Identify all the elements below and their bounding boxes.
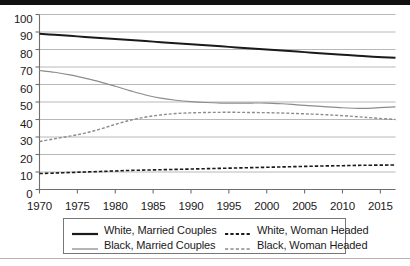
y-axis-tick-label: 70 xyxy=(0,65,33,77)
y-axis-tick-label: 40 xyxy=(0,118,33,130)
legend-swatch-dashed-black xyxy=(225,225,251,235)
legend-entry-white-married: White, Married Couples xyxy=(72,222,217,238)
line-chart-figure: White, Married Couples White, Woman Head… xyxy=(0,5,410,258)
y-axis-tick-label: 50 xyxy=(0,100,33,112)
legend-swatch-solid-black-thick xyxy=(72,225,98,235)
legend-label-black-woman: Black, Woman Headed xyxy=(257,239,367,251)
legend-label-white-married: White, Married Couples xyxy=(104,224,217,236)
legend-label-black-married: Black, Married Couples xyxy=(104,239,216,251)
bottom-divider-rule xyxy=(0,258,410,259)
y-axis-tick-label: 100 xyxy=(0,13,33,25)
legend-row-4: Black, Woman Headed xyxy=(225,237,367,253)
y-axis-tick-label: 20 xyxy=(0,153,33,165)
legend-row-3: Black, Married Couples xyxy=(72,237,216,253)
x-axis-tick-label: 2015 xyxy=(358,200,402,212)
y-axis-tick-label: 0 xyxy=(0,188,33,200)
legend-swatch-solid-gray xyxy=(72,240,98,250)
y-axis-tick-label: 60 xyxy=(0,83,33,95)
legend-row-1: White, Married Couples xyxy=(72,222,217,238)
legend-label-white-woman: White, Woman Headed xyxy=(257,224,369,236)
legend-entry-black-married: Black, Married Couples xyxy=(72,237,216,253)
legend-row-2: White, Woman Headed xyxy=(225,222,369,238)
legend-entry-white-woman: White, Woman Headed xyxy=(225,222,369,238)
y-axis-tick-label: 80 xyxy=(0,48,33,60)
series-line-1 xyxy=(40,71,396,109)
series-line-0 xyxy=(40,34,396,58)
chart-legend: White, Married Couples White, Woman Head… xyxy=(63,218,346,254)
legend-swatch-dashed-gray xyxy=(225,240,251,250)
y-axis-tick-label: 90 xyxy=(0,30,33,42)
legend-entry-black-woman: Black, Woman Headed xyxy=(225,237,367,253)
y-axis-tick-label: 10 xyxy=(0,170,33,182)
y-axis-tick-label: 30 xyxy=(0,135,33,147)
